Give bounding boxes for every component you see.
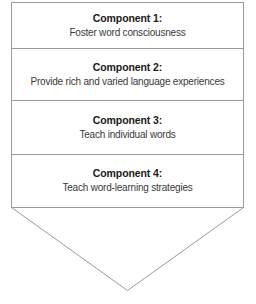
component-2-title: Component 2: <box>93 61 162 74</box>
component-row-2: Component 2: Provide rich and varied lan… <box>11 48 244 100</box>
component-3-description: Teach individual words <box>79 128 175 141</box>
vocabulary-components-diagram: Component 1: Foster word consciousness C… <box>0 0 256 304</box>
component-1-title: Component 1: <box>93 12 162 25</box>
component-row-1: Component 1: Foster word consciousness <box>11 2 244 48</box>
component-2-description: Provide rich and varied language experie… <box>30 75 224 88</box>
component-1-description: Foster word consciousness <box>69 26 185 39</box>
component-list: Component 1: Foster word consciousness C… <box>11 2 244 207</box>
component-3-title: Component 3: <box>93 114 162 127</box>
component-row-4: Component 4: Teach word-learning strateg… <box>11 154 244 207</box>
component-row-3: Component 3: Teach individual words <box>11 100 244 154</box>
component-4-description: Teach word-learning strategies <box>62 181 192 194</box>
component-4-title: Component 4: <box>93 167 162 180</box>
